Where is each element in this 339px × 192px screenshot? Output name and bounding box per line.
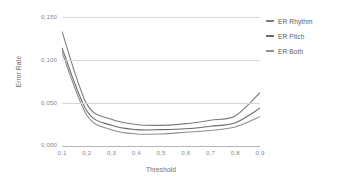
series-line-er-both [62,52,260,134]
legend-item-er-rhythm[interactable]: ER Rhythm [266,14,338,28]
gridline-0150 [62,17,260,18]
x-tick-label-08: 0,8 [224,150,246,156]
gridline-baseline-0000 [62,146,260,147]
y-tick-label-0000: 0,000 [17,142,57,148]
y-tick-label-0150: 0,150 [17,14,57,20]
legend-label: ER Pitch [278,33,304,40]
x-axis-ticks: 0,1 0,2 0,3 0,4 0,5 0,6 0,7 0,8 0,9 [62,150,260,160]
legend-swatch-icon [266,50,274,53]
x-tick-label-07: 0,7 [200,150,222,156]
legend-swatch-icon [266,20,274,23]
y-tick-label-0050: 0,050 [17,100,57,106]
x-tick-label-01: 0,1 [51,150,73,156]
x-tick-label-09: 0,9 [249,150,271,156]
legend-item-er-both[interactable]: ER Both [266,44,338,58]
legend-label: ER Both [278,48,303,55]
gridline-0050 [62,103,260,104]
x-tick-label-03: 0,3 [101,150,123,156]
plot-area [62,17,260,146]
legend-label: ER Rhythm [278,18,313,25]
legend-item-er-pitch[interactable]: ER Pitch [266,29,338,43]
y-axis-title: Error Rate [15,42,22,102]
line-chart: 0,150 0,100 0,050 0,000 0,1 0,2 0,3 0,4 … [0,0,339,192]
series-line-er-rhythm [62,32,260,126]
series-plot [62,17,260,146]
gridline-0100 [62,60,260,61]
x-axis-title: Threshold [62,166,260,173]
y-tick-label-0100: 0,100 [17,57,57,63]
legend: ER Rhythm ER Pitch ER Both [266,14,338,59]
x-tick-label-02: 0,2 [76,150,98,156]
x-tick-label-05: 0,5 [150,150,172,156]
x-tick-label-06: 0,6 [175,150,197,156]
x-tick-label-04: 0,4 [125,150,147,156]
legend-swatch-icon [266,35,274,38]
